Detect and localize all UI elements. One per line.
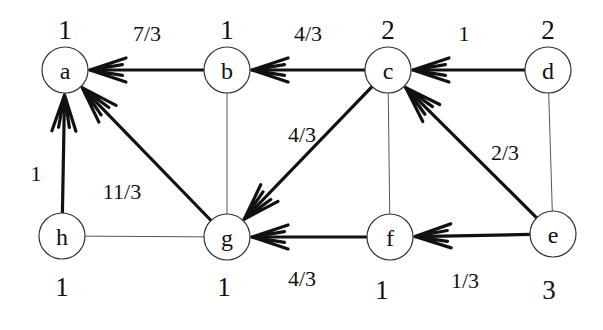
edge-c-b	[252, 58, 365, 82]
node-e: e	[530, 211, 576, 257]
node-label: e	[548, 222, 559, 248]
edge-label-c-b: 4/3	[294, 21, 322, 46]
edge-label-e-c: 2/3	[491, 140, 519, 165]
edge-f-g	[252, 225, 367, 249]
edge-label-f-g: 4/3	[288, 266, 316, 291]
node-label: a	[60, 58, 71, 84]
edge-h-a	[52, 95, 76, 213]
node-d: d	[525, 47, 571, 93]
node-value-g: 1	[217, 272, 231, 302]
edge-b-a	[90, 58, 204, 82]
edge-c-g	[244, 87, 372, 219]
node-c: c	[365, 47, 411, 93]
edge-d-e	[549, 93, 553, 211]
node-label: b	[221, 58, 233, 84]
edge-line	[82, 88, 211, 221]
node-label: h	[56, 224, 68, 250]
edge-d-c	[413, 58, 525, 82]
edge-g-a	[82, 88, 211, 221]
edge-h-g	[85, 236, 204, 237]
node-value-a: 1	[58, 15, 72, 45]
node-label: g	[221, 225, 233, 251]
node-value-c: 2	[381, 15, 395, 45]
node-value-f: 1	[375, 275, 389, 305]
node-value-d: 2	[541, 15, 555, 45]
edge-e-f	[415, 224, 530, 248]
edge-c-f	[388, 93, 389, 214]
flow-graph: abcdefgh 7/34/314/32/311/314/31/3 112231…	[0, 0, 603, 330]
node-label: d	[542, 58, 554, 84]
node-a: a	[42, 47, 88, 93]
node-value-e: 3	[542, 275, 556, 305]
edge-label-b-a: 7/3	[133, 21, 161, 46]
node-g: g	[204, 214, 250, 260]
node-value-b: 1	[220, 15, 234, 45]
node-h: h	[39, 213, 85, 259]
edge-label-g-a: 11/3	[103, 179, 141, 204]
edge-label-h-a: 1	[31, 161, 42, 186]
edge-line	[244, 87, 372, 219]
node-label: f	[386, 225, 394, 251]
node-f: f	[367, 214, 413, 260]
edge-label-d-c: 1	[459, 21, 470, 46]
node-value-h: 1	[55, 272, 69, 302]
node-label: c	[383, 58, 394, 84]
edge-label-e-f: 1/3	[451, 268, 479, 293]
edge-label-c-g: 4/3	[288, 122, 316, 147]
node-b: b	[204, 47, 250, 93]
directed-edges	[52, 58, 537, 249]
